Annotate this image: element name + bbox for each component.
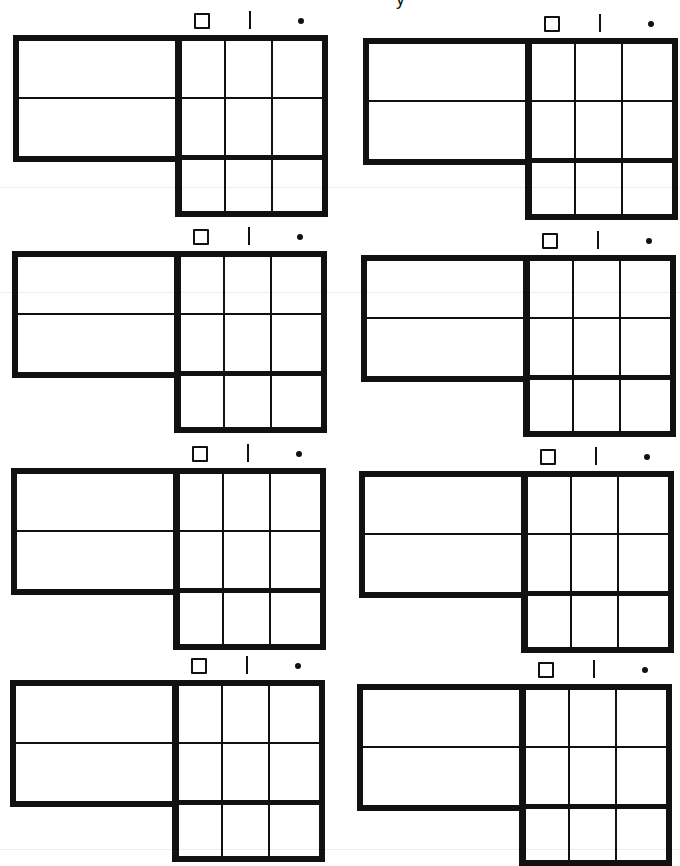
dot-symbol-icon: [296, 451, 302, 457]
grid-cell-bar-row-3[interactable]: [576, 163, 621, 214]
grid-cell-dot-row-3[interactable]: [271, 593, 320, 644]
grid-cell-square-row-3[interactable]: [181, 376, 223, 427]
grid-cell-dot-row-2[interactable]: [619, 535, 668, 591]
grid-cell-bar-row-1[interactable]: [224, 474, 269, 530]
grid-cell-square-row-3[interactable]: [532, 163, 574, 214]
grid-cell-square-row-1[interactable]: [528, 477, 570, 533]
grid-cell-bar-row-1[interactable]: [223, 686, 268, 742]
grid-cell-dot-row-2[interactable]: [270, 744, 319, 800]
grid-cell-square-row-3[interactable]: [530, 380, 572, 431]
grid-cell-dot-row-3[interactable]: [617, 809, 666, 860]
grid-cell-bar-row-2[interactable]: [225, 315, 270, 371]
grid-cell-bar-row-1[interactable]: [570, 690, 615, 746]
grid-cell-dot-row-3[interactable]: [623, 163, 672, 214]
grid-cell-square-row-2[interactable]: [528, 535, 570, 591]
grid-cell-dot-row-1[interactable]: [623, 44, 672, 100]
grid-cell-bar-row-1[interactable]: [226, 41, 271, 97]
grid-cell-dot-row-2[interactable]: [621, 319, 670, 375]
grid-cell-square-row-2[interactable]: [179, 744, 221, 800]
grid-cell-dot-row-2[interactable]: [623, 102, 672, 158]
label-field-top[interactable]: [363, 690, 525, 746]
grid-cell-square-row-3[interactable]: [182, 160, 224, 211]
grid-cell-bar-row-2[interactable]: [226, 99, 271, 155]
grid-cell-bar-row-3[interactable]: [224, 593, 269, 644]
square-symbol-icon: [193, 229, 209, 245]
grid-cell-dot-row-1[interactable]: [271, 474, 320, 530]
square-symbol-icon: [191, 658, 207, 674]
label-field-bottom[interactable]: [18, 315, 180, 372]
label-field-bottom[interactable]: [367, 319, 529, 376]
grid-cell-square-row-2[interactable]: [181, 315, 223, 371]
grid-cell-bar-row-1[interactable]: [574, 261, 619, 317]
grid-cell-dot-row-2[interactable]: [271, 532, 320, 588]
label-field-bottom[interactable]: [17, 532, 179, 589]
grid-cell-square-row-1[interactable]: [182, 41, 224, 97]
bar-symbol-icon: [246, 656, 248, 674]
grid-cell-bar-row-3[interactable]: [223, 805, 268, 856]
tally-grid: [521, 471, 674, 653]
grid-cell-dot-row-2[interactable]: [272, 315, 321, 371]
label-field-bottom[interactable]: [19, 99, 181, 156]
grid-cell-dot-row-2[interactable]: [273, 99, 322, 155]
tally-grid: [175, 35, 328, 217]
grid-cell-square-row-1[interactable]: [532, 44, 574, 100]
bar-symbol-icon: [599, 14, 601, 32]
grid-cell-square-row-3[interactable]: [180, 593, 222, 644]
grid-cell-bar-row-3[interactable]: [226, 160, 271, 211]
grid-cell-dot-row-3[interactable]: [621, 380, 670, 431]
grid-cell-square-row-2[interactable]: [180, 532, 222, 588]
grid-cell-bar-row-2[interactable]: [223, 744, 268, 800]
grid-cell-dot-row-1[interactable]: [273, 41, 322, 97]
grid-cell-dot-row-1[interactable]: [617, 690, 666, 746]
grid-cell-bar-row-2[interactable]: [572, 535, 617, 591]
label-field-bottom[interactable]: [16, 744, 178, 801]
worksheet-block-3: [12, 251, 330, 433]
grid-cell-dot-row-3[interactable]: [272, 376, 321, 427]
grid-cell-bar-row-2[interactable]: [576, 102, 621, 158]
label-field-bottom[interactable]: [369, 102, 531, 159]
grid-cell-square-row-2[interactable]: [182, 99, 224, 155]
worksheet-block-5: [11, 468, 329, 650]
grid-cell-bar-row-2[interactable]: [224, 532, 269, 588]
grid-cell-bar-row-3[interactable]: [570, 809, 615, 860]
label-field-top[interactable]: [18, 257, 180, 313]
grid-cell-square-row-1[interactable]: [181, 257, 223, 313]
label-field-top[interactable]: [17, 474, 179, 530]
grid-cell-dot-row-1[interactable]: [619, 477, 668, 533]
label-field-top[interactable]: [16, 686, 178, 742]
grid-cell-bar-row-1[interactable]: [576, 44, 621, 100]
grid-cell-bar-row-2[interactable]: [574, 319, 619, 375]
grid-cell-square-row-1[interactable]: [526, 690, 568, 746]
grid-cell-square-row-2[interactable]: [526, 748, 568, 804]
grid-cell-dot-row-3[interactable]: [273, 160, 322, 211]
grid-cell-square-row-3[interactable]: [179, 805, 221, 856]
grid-cell-square-row-1[interactable]: [530, 261, 572, 317]
grid-cell-square-row-3[interactable]: [528, 596, 570, 647]
tally-grid: [172, 680, 325, 862]
label-box: [357, 684, 525, 811]
grid-cell-bar-row-3[interactable]: [574, 380, 619, 431]
grid-cell-bar-row-1[interactable]: [572, 477, 617, 533]
label-field-top[interactable]: [369, 44, 531, 100]
label-field-top[interactable]: [365, 477, 527, 533]
grid-cell-dot-row-3[interactable]: [619, 596, 668, 647]
grid-cell-dot-row-1[interactable]: [272, 257, 321, 313]
label-field-top[interactable]: [19, 41, 181, 97]
grid-cell-square-row-1[interactable]: [179, 686, 221, 742]
grid-cell-dot-row-1[interactable]: [270, 686, 319, 742]
grid-cell-square-row-2[interactable]: [530, 319, 572, 375]
grid-cell-dot-row-1[interactable]: [621, 261, 670, 317]
grid-cell-square-row-3[interactable]: [526, 809, 568, 860]
label-field-top[interactable]: [367, 261, 529, 317]
label-field-bottom[interactable]: [363, 748, 525, 805]
grid-cell-square-row-2[interactable]: [532, 102, 574, 158]
label-field-bottom[interactable]: [365, 535, 527, 592]
grid-cell-dot-row-2[interactable]: [617, 748, 666, 804]
dot-symbol-icon: [295, 663, 301, 669]
grid-cell-bar-row-1[interactable]: [225, 257, 270, 313]
grid-cell-bar-row-2[interactable]: [570, 748, 615, 804]
grid-cell-bar-row-3[interactable]: [225, 376, 270, 427]
grid-cell-bar-row-3[interactable]: [572, 596, 617, 647]
grid-cell-dot-row-3[interactable]: [270, 805, 319, 856]
grid-cell-square-row-1[interactable]: [180, 474, 222, 530]
